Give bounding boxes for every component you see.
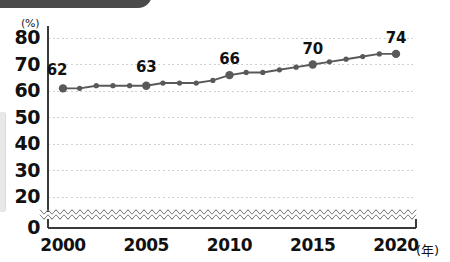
y-axis-tick-label: 80 (6, 26, 40, 48)
x-axis-tick-label: 2000 (33, 235, 93, 255)
data-point-value-label: 62 (40, 61, 74, 79)
data-point-marker (377, 51, 382, 56)
data-point-value-label: 70 (296, 40, 330, 58)
x-axis-unit-label: (年) (416, 240, 439, 259)
data-point-marker (392, 50, 400, 58)
data-point-marker (160, 80, 165, 85)
data-point-marker (294, 65, 299, 70)
data-point-marker (210, 78, 215, 83)
data-point-marker (127, 83, 132, 88)
data-point-marker (309, 60, 317, 68)
y-axis-tick-label: 70 (6, 53, 40, 75)
data-point-marker (225, 71, 233, 79)
data-point-marker (277, 67, 282, 72)
data-point-marker (194, 80, 199, 85)
x-axis-tick-label: 2005 (116, 235, 176, 255)
data-point-marker (260, 70, 265, 75)
x-axis-tick-label: 2015 (283, 235, 343, 255)
data-point-marker (360, 54, 365, 59)
x-axis-tick-label: 2010 (200, 235, 260, 255)
data-point-value-label: 66 (213, 50, 247, 68)
y-axis-tick-label: 30 (6, 159, 40, 181)
data-point-marker (77, 86, 82, 91)
data-point-marker (142, 82, 150, 90)
data-point-value-label: 63 (129, 58, 163, 76)
data-point-marker (59, 84, 67, 92)
data-point-marker (110, 83, 115, 88)
data-point-marker (177, 80, 182, 85)
data-point-marker (244, 70, 249, 75)
chart-canvas: (%) 020304050607080 20002005201020152020… (0, 0, 450, 262)
data-point-marker (94, 83, 99, 88)
data-point-marker (343, 57, 348, 62)
y-axis-tick-label: 20 (6, 185, 40, 207)
y-axis-tick-label: 50 (6, 106, 40, 128)
data-point-marker (327, 59, 332, 64)
y-axis-tick-label: 60 (6, 79, 40, 101)
y-axis-tick-label: 40 (6, 132, 40, 154)
data-point-value-label: 74 (379, 29, 413, 47)
